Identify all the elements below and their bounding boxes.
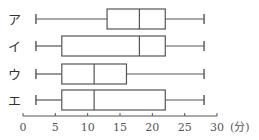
x-tick-label: 10 — [81, 121, 95, 134]
iqr-box — [62, 36, 165, 56]
box-plot-chart: アイウエ051015202530(分) — [0, 0, 259, 140]
x-tick-label: 15 — [113, 121, 127, 134]
x-axis-unit-label: (分) — [230, 121, 250, 134]
category-label: ア — [8, 12, 21, 27]
x-tick-label: 0 — [20, 121, 27, 134]
iqr-box — [107, 9, 165, 29]
x-tick-label: 30 — [210, 121, 224, 134]
category-label: ウ — [8, 67, 21, 82]
iqr-box — [62, 90, 165, 110]
category-label: エ — [8, 93, 21, 108]
category-label: イ — [8, 39, 21, 54]
x-tick-label: 25 — [178, 121, 192, 134]
x-tick-label: 5 — [52, 121, 59, 134]
x-tick-label: 20 — [145, 121, 159, 134]
